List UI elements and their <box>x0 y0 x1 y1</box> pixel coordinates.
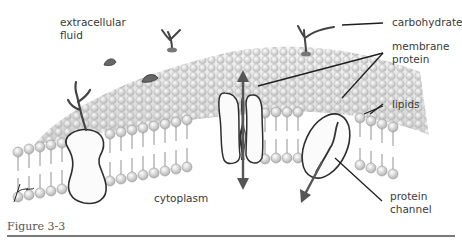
label-carbohydrate: carbohydrate <box>392 16 462 29</box>
caption-rule <box>7 235 455 237</box>
integral-protein-left <box>66 130 106 204</box>
label-lipids: lipids <box>392 98 420 111</box>
label-cytoplasm: cytoplasm <box>154 192 208 205</box>
carbohydrate-top-left <box>162 30 180 49</box>
figure-caption: Figure 3-3 <box>7 220 65 233</box>
label-protein-channel: protein channel <box>390 190 432 216</box>
peripheral-protein-1 <box>104 59 116 66</box>
label-membrane-protein: membrane protein <box>392 40 449 66</box>
label-extracellular-fluid: extracellular fluid <box>60 16 126 42</box>
